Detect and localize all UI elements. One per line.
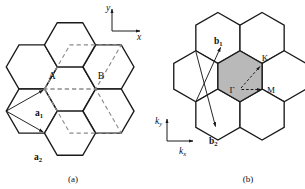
axis-x-label: x — [136, 32, 142, 42]
atom-label-b: B — [98, 70, 105, 81]
axis-y-label: y — [105, 3, 111, 13]
lattice-vector-a2-label: a2 — [34, 152, 43, 163]
symmetry-point-m: M — [267, 85, 275, 95]
panel-b-caption: (b) — [243, 174, 254, 184]
atom-label-a: A — [48, 70, 56, 81]
panel-b-axes: ky kx — [155, 116, 193, 157]
axis-kx-label: kx — [179, 146, 186, 157]
panel-a-caption: (a) — [68, 174, 78, 184]
panel-b-hexagons — [174, 13, 305, 141]
figure-container: A B a1 a2 — [0, 0, 305, 189]
symmetry-point-gamma: Γ — [229, 85, 234, 95]
panel-b: b1 b2 Γ K M ky kx (b) — [155, 13, 305, 185]
panel-a: A B a1 a2 — [6, 3, 142, 184]
axis-ky-label: ky — [155, 116, 162, 127]
panel-a-axes: y x — [105, 3, 142, 42]
figure-svg: A B a1 a2 — [0, 0, 305, 189]
panel-a-hexagons — [6, 23, 134, 156]
symmetry-point-k: K — [262, 53, 269, 63]
